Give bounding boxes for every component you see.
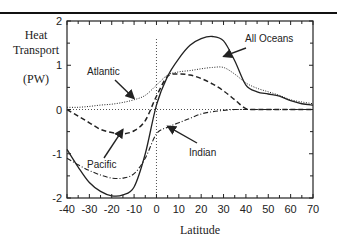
x-tick-label: 10 [173,203,185,215]
x-tick-label: 60 [285,203,297,215]
x-tick-label: -40 [59,203,75,215]
x-tick-label: -10 [126,203,142,215]
arrow-all-oceans [224,48,246,56]
x-tick-label: 40 [240,203,252,215]
annotation-all-oceans: All Oceans [245,33,293,44]
series-all-oceans [67,36,313,196]
x-tick-label: -20 [104,203,120,215]
arrow-atlantic [115,80,134,98]
x-tick-label: 30 [217,203,229,215]
heat-transport-chart: -40-30-20-10010203040506070-2-1012All Oc… [0,0,338,243]
y-tick-label: 0 [56,104,62,116]
annotation-atlantic: Atlantic [87,66,120,77]
arrow-pacific [104,129,123,158]
y-tick-label: 2 [56,15,62,27]
x-axis-label: Latitude [160,223,240,238]
y-tick-label: 1 [56,59,62,71]
annotation-indian: Indian [189,147,216,158]
series-pacific [67,74,313,134]
x-tick-label: 70 [307,203,319,215]
x-tick-label: 50 [262,203,274,215]
annotation-pacific: Pacific [87,159,116,170]
y-tick-label: -1 [52,148,62,160]
arrow-indian [168,126,197,143]
x-tick-label: 0 [153,203,159,215]
x-tick-label: -30 [81,203,97,215]
y-tick-label: -2 [52,192,62,204]
x-tick-label: 20 [195,203,207,215]
